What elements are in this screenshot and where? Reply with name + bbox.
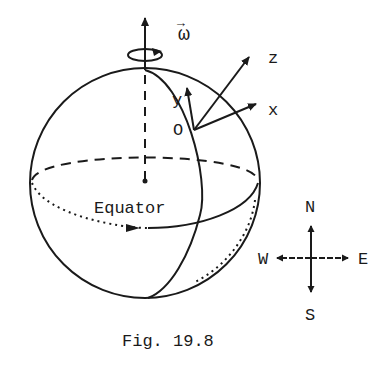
y-axis-label: y (172, 91, 182, 110)
diagram-canvas: ω → y z x O Equator N S W E Fig. 19.8 (0, 0, 391, 366)
equator-arrowhead-icon (126, 224, 140, 232)
x-axis-label: x (268, 101, 278, 120)
compass-east-label: E (358, 250, 368, 269)
compass-north-label: N (305, 198, 315, 217)
origin-label: O (173, 121, 183, 140)
compass: N S W E (258, 198, 368, 325)
compass-south-label: S (305, 306, 315, 325)
equator-label: Equator (94, 199, 165, 218)
compass-west-label: W (258, 250, 269, 269)
figure-caption: Fig. 19.8 (122, 332, 214, 351)
omega-vector-arrow: → (177, 16, 185, 31)
z-axis-label: z (268, 49, 278, 68)
earth-center-dot (143, 179, 148, 184)
